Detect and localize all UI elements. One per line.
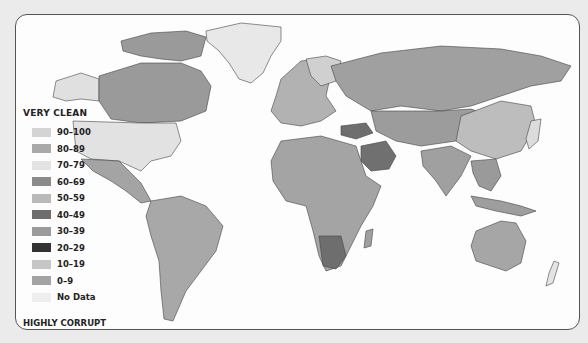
map-frame: VERY CLEAN 90–100 80–89 70–79 60–69 50–5… [15, 14, 580, 330]
region-south-america [146, 196, 223, 321]
region-canada [99, 63, 211, 123]
legend-item: 20–29 [23, 240, 106, 257]
region-greenland [206, 23, 281, 83]
legend-bottom-label: HIGHLY CORRUPT [23, 318, 106, 328]
legend-swatch [32, 227, 51, 236]
region-se-asia [471, 159, 501, 191]
legend-swatch [32, 161, 51, 170]
region-australia [471, 221, 526, 271]
legend-item: 70–79 [23, 157, 106, 174]
legend-item: 10–19 [23, 256, 106, 273]
legend-swatch [32, 276, 51, 285]
legend-item: 0–9 [23, 273, 106, 290]
region-turkey [341, 123, 373, 139]
legend-swatch [32, 210, 51, 219]
legend-item: 40–49 [23, 207, 106, 224]
legend-swatch [32, 260, 51, 269]
region-saudi [361, 141, 396, 171]
legend-swatch [32, 177, 51, 186]
legend-item: 60–69 [23, 174, 106, 191]
map-legend: VERY CLEAN 90–100 80–89 70–79 60–69 50–5… [23, 108, 106, 328]
legend-item: 80–89 [23, 141, 106, 158]
legend-swatch [32, 128, 51, 137]
legend-swatch [32, 243, 51, 252]
legend-item: 50–59 [23, 190, 106, 207]
region-alaska [53, 73, 99, 101]
legend-top-label: VERY CLEAN [23, 108, 106, 118]
legend-item: 30–39 [23, 223, 106, 240]
legend-item: 90–100 [23, 124, 106, 141]
legend-swatch [32, 194, 51, 203]
legend-swatch [32, 293, 51, 302]
region-india [421, 146, 471, 196]
region-madagascar [364, 229, 373, 248]
legend-swatch [32, 144, 51, 153]
region-russia [331, 46, 571, 111]
region-canada-arctic [121, 31, 206, 61]
region-new-zealand [546, 261, 559, 286]
region-indonesia [471, 196, 536, 216]
legend-item: No Data [23, 289, 106, 306]
